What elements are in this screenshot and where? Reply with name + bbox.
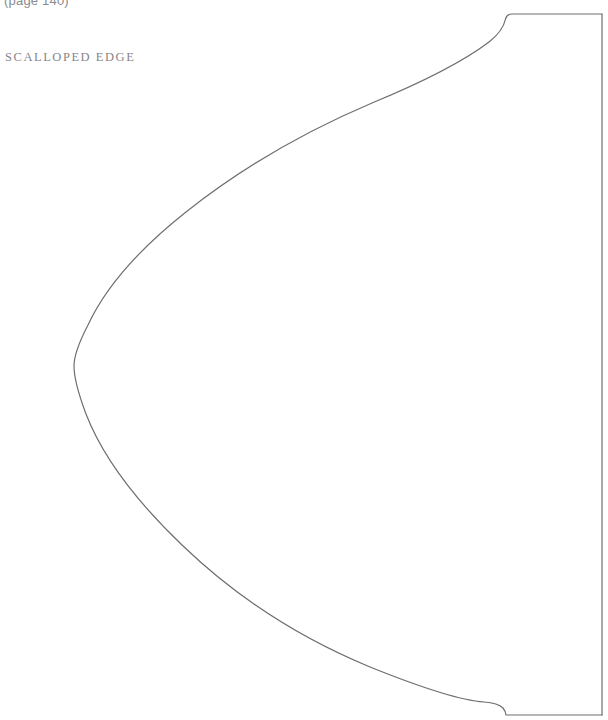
pattern-outline-drawing <box>0 0 608 720</box>
scalloped-edge-outline-path <box>74 14 602 715</box>
pattern-page: (page 140) SCALLOPED EDGE <box>0 0 608 720</box>
